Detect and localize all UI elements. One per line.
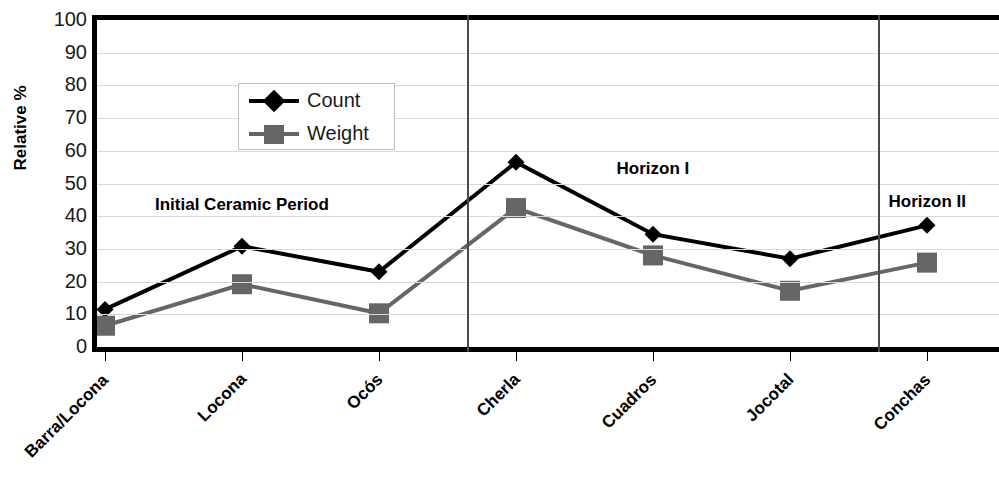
y-tick-label: 20 <box>43 271 87 291</box>
y-tick-label: 40 <box>43 205 87 225</box>
legend: Count Weight <box>238 83 395 150</box>
series-line-weight <box>105 208 927 326</box>
x-tick-mark <box>790 352 791 361</box>
x-tick-mark <box>927 352 928 361</box>
data-point-count <box>919 217 936 234</box>
y-tick-label: 10 <box>43 303 87 323</box>
x-tick-label: Cherla <box>473 370 525 422</box>
period-divider <box>878 15 880 352</box>
plot-area: Initial Ceramic PeriodHorizon IHorizon I… <box>92 15 999 352</box>
gridline <box>97 184 999 185</box>
y-tick-label: 60 <box>43 140 87 160</box>
x-axis-line <box>92 347 999 352</box>
y-tick-label: 30 <box>43 238 87 258</box>
gridline <box>97 314 999 315</box>
y-tick-label: 100 <box>43 9 87 29</box>
diamond-marker-icon <box>263 90 286 113</box>
y-tick-label: 80 <box>43 74 87 94</box>
gridline <box>97 282 999 283</box>
legend-label-weight: Weight <box>307 122 369 145</box>
y-tick-label: 0 <box>43 336 87 356</box>
period-divider <box>467 15 469 352</box>
legend-item-weight[interactable]: Weight <box>239 117 396 150</box>
x-axis-labels: Barra/LoconaLoconaOcósCherlaCuadrosJocot… <box>0 366 999 487</box>
plot-border-top <box>92 15 999 20</box>
data-point-weight <box>917 253 937 273</box>
x-tick-mark <box>379 352 380 361</box>
y-tick-label: 50 <box>43 173 87 193</box>
data-point-weight <box>780 281 800 301</box>
gridline <box>97 151 999 152</box>
gridline <box>97 249 999 250</box>
data-point-weight <box>506 198 526 218</box>
x-tick-label: Jocotal <box>742 370 798 426</box>
x-tick-label: Barra/Locona <box>21 370 113 462</box>
data-point-count <box>645 226 662 243</box>
x-tick-mark <box>653 352 654 361</box>
x-tick-mark <box>516 352 517 361</box>
line-chart: Relative % 1009080706050403020100 Initia… <box>0 0 999 487</box>
gridline <box>97 53 999 54</box>
data-point-count <box>97 301 114 318</box>
y-tick-label: 90 <box>43 42 87 62</box>
x-tick-label: Conchas <box>870 370 935 435</box>
x-tick-label: Locona <box>194 370 251 427</box>
gridline <box>97 85 999 86</box>
legend-label-count: Count <box>307 89 360 112</box>
data-point-weight <box>232 274 252 294</box>
annotation-label: Horizon I <box>617 159 690 179</box>
x-tick-label: Ocós <box>343 370 387 414</box>
y-tick-label: 70 <box>43 107 87 127</box>
x-tick-mark <box>242 352 243 361</box>
gridline <box>97 216 999 217</box>
x-tick-label: Cuadros <box>598 370 661 433</box>
legend-item-count[interactable]: Count <box>239 84 396 117</box>
data-point-count <box>234 238 251 255</box>
data-point-weight <box>95 316 115 336</box>
data-point-count <box>782 250 799 267</box>
annotation-label: Horizon II <box>889 192 966 212</box>
gridline <box>97 118 999 119</box>
annotation-label: Initial Ceramic Period <box>155 195 329 215</box>
x-tick-mark <box>105 352 106 361</box>
square-marker-icon <box>264 125 284 144</box>
